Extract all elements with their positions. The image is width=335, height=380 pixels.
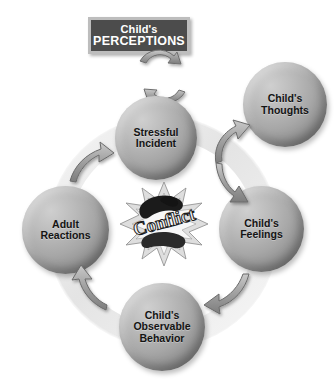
node-label-line-1: Child's [261,93,309,105]
node-label-line-2: Reactions [40,230,90,242]
node-label-line-2: Thoughts [261,105,309,117]
cycle-diagram: Child's PERCEPTIONS Stressful Incident C… [0,0,335,380]
node-label-line-3: Behavior [133,333,190,345]
node-label-line-2: Incident [134,138,179,150]
conflict-label: Conflict [117,199,212,244]
node-label-line-2: Feelings [240,229,283,241]
conflict-label-wrap: Conflict [118,185,210,263]
